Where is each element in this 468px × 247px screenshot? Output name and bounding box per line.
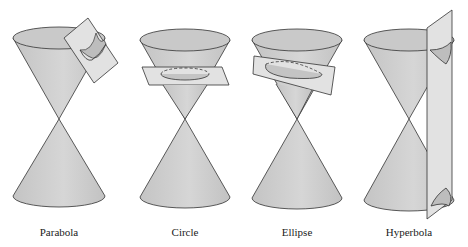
label-circle: Circle	[135, 226, 235, 238]
hyperbola-cutting-plane	[427, 10, 452, 219]
conic-sections-diagram	[0, 0, 468, 247]
label-parabola: Parabola	[9, 226, 109, 238]
circle-cutting-plane	[142, 67, 229, 119]
label-ellipse: Ellipse	[247, 226, 347, 238]
ellipse-cutting-plane	[253, 56, 335, 119]
label-hyperbola: Hyperbola	[359, 226, 459, 238]
